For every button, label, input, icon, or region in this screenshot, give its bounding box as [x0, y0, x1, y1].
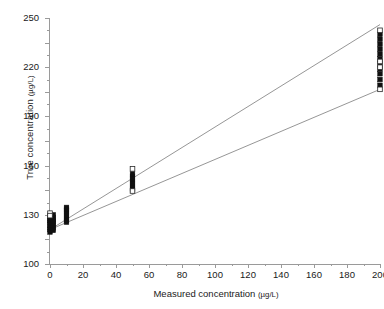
plot-area: -50-20104070100130160190220250 020406080… — [50, 18, 380, 264]
y-tick-minor — [47, 203, 49, 204]
y-tick-minor — [47, 80, 49, 81]
x-tick — [314, 264, 315, 268]
data-point-open-square — [378, 59, 383, 64]
data-point-open-square — [378, 87, 383, 92]
data-point-filled-square — [64, 205, 69, 210]
data-point-open-square — [130, 189, 135, 194]
data-layer — [50, 18, 380, 264]
x-tick-minor — [298, 264, 299, 266]
y-tick-label-250: 250 — [23, 13, 39, 23]
x-tick — [149, 264, 150, 268]
y-tick: 100 — [45, 141, 49, 142]
data-point-open-square — [130, 167, 135, 172]
x-tick-minor — [364, 264, 365, 266]
x-tick — [116, 264, 117, 268]
y-tick-minor — [47, 129, 49, 130]
upper-regression-line — [50, 25, 380, 230]
y-tick-minor — [47, 30, 49, 31]
y-tick-label-100: 100 — [23, 259, 39, 269]
y-tick: 40 — [45, 190, 49, 191]
y-tick: -20 — [45, 239, 49, 240]
y-axis-unit: (µg/L) — [26, 75, 35, 96]
y-tick-label-160: 160 — [23, 161, 39, 171]
y-tick-minor — [47, 252, 49, 253]
y-tick: 250 — [45, 18, 49, 19]
y-tick: 190 — [45, 67, 49, 68]
y-tick: 130 — [45, 116, 49, 117]
x-tick — [248, 264, 249, 268]
data-point-open-square — [48, 213, 53, 218]
chart-figure: True concentration (µg/L) Measured conce… — [0, 0, 384, 309]
y-tick: -50 — [45, 264, 49, 265]
x-tick-minor — [100, 264, 101, 266]
y-tick: 160 — [45, 92, 49, 93]
y-tick-minor — [47, 104, 49, 105]
x-tick-label-60: 60 — [144, 270, 155, 280]
x-tick-minor — [199, 264, 200, 266]
x-tick — [215, 264, 216, 268]
y-tick-label-220: 220 — [23, 62, 39, 72]
x-tick-minor — [133, 264, 134, 266]
y-tick-minor — [47, 153, 49, 154]
y-tick: 70 — [45, 166, 49, 167]
data-point-filled-square — [378, 47, 383, 52]
x-tick-label-80: 80 — [177, 270, 188, 280]
y-tick-label-190: 190 — [23, 112, 39, 122]
data-point-filled-square — [378, 42, 383, 47]
x-tick-label-40: 40 — [111, 270, 122, 280]
data-point-filled-square — [378, 52, 383, 57]
x-tick-minor — [166, 264, 167, 266]
y-tick: 220 — [45, 43, 49, 44]
y-tick-minor — [47, 55, 49, 56]
x-tick-label-200: 200 — [372, 270, 384, 280]
x-axis-unit: (µg/L) — [258, 290, 279, 299]
data-point-filled-square — [378, 77, 383, 82]
y-tick-minor — [47, 178, 49, 179]
data-points — [48, 28, 383, 234]
data-point-filled-square — [51, 228, 56, 233]
y-tick-label-130: 130 — [23, 210, 39, 220]
x-tick-label-180: 180 — [339, 270, 355, 280]
x-axis-title-text: Measured concentration — [153, 288, 255, 299]
x-axis-title: Measured concentration (µg/L) — [50, 288, 382, 299]
x-tick-label-140: 140 — [273, 270, 289, 280]
x-tick-label-160: 160 — [306, 270, 322, 280]
x-tick — [50, 264, 51, 268]
x-tick — [281, 264, 282, 268]
data-point-open-square — [378, 28, 383, 33]
data-point-filled-square — [130, 172, 135, 177]
x-tick-label-20: 20 — [78, 270, 89, 280]
data-point-filled-square — [378, 71, 383, 76]
x-tick-minor — [265, 264, 266, 266]
data-point-open-square — [378, 65, 383, 70]
x-tick — [83, 264, 84, 268]
x-tick-label-0: 0 — [47, 270, 52, 280]
x-tick-minor — [232, 264, 233, 266]
x-tick — [347, 264, 348, 268]
data-point-filled-square — [51, 219, 56, 224]
x-tick-label-120: 120 — [240, 270, 256, 280]
data-point-filled-square — [64, 220, 69, 225]
x-tick-minor — [67, 264, 68, 266]
x-tick-minor — [331, 264, 332, 266]
x-tick — [182, 264, 183, 268]
lower-regression-line — [50, 89, 380, 229]
regression-lines — [50, 25, 380, 230]
data-point-filled-square — [378, 37, 383, 42]
x-tick-label-100: 100 — [207, 270, 223, 280]
x-tick — [380, 264, 381, 268]
